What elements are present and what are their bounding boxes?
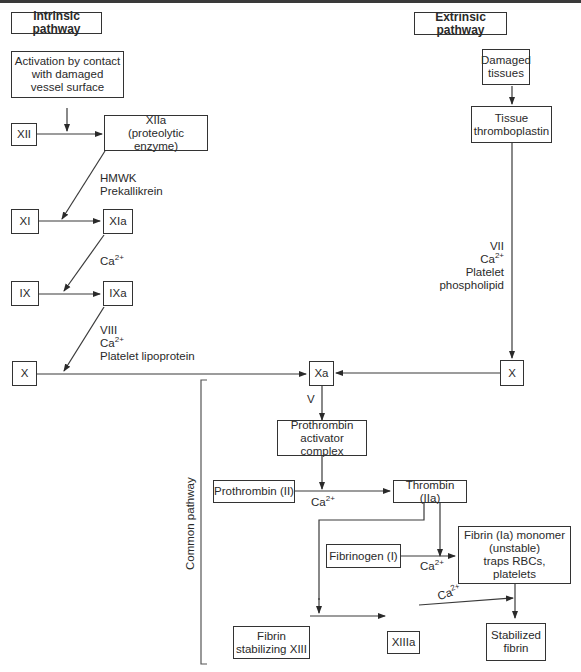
stabilized-fibrin-node: Stabilized fibrin <box>486 623 546 661</box>
factor-xii-node: XII <box>11 123 37 146</box>
factor-x-intrinsic-node: X <box>12 361 37 386</box>
factor-xi-node: XI <box>11 209 39 234</box>
factor-ixa-node: IXa <box>103 281 133 306</box>
damaged-tissues-node: Damaged tissues <box>482 49 530 85</box>
thrombin-node: Thrombin (IIa) <box>393 480 467 503</box>
fibrin-monomer-node: Fibrin (Ia) monomer (unstable) traps RBC… <box>458 526 571 584</box>
factor-x-extrinsic-node: X <box>500 360 524 386</box>
fibrinogen-node: Fibrinogen (I) <box>326 544 401 568</box>
calcium-label-fibrinogen: Ca2+ <box>420 560 444 573</box>
factor-v-label: V <box>307 393 315 406</box>
extrinsic-pathway-header: Extrinsic pathway <box>414 12 507 35</box>
common-pathway-label: Common pathway <box>184 477 196 570</box>
prothrombin-activator-node: Prothrombin activator complex <box>277 420 367 456</box>
fibrin-stabilizing-xiii-node: Fibrin stabilizing XIII <box>233 626 310 659</box>
factor-xa-node: Xa <box>309 361 334 386</box>
tissue-thromboplastin-node: Tissue thromboplastin <box>471 106 552 143</box>
activation-contact-node: Activation by contact with damaged vesse… <box>11 51 124 98</box>
intrinsic-pathway-header: Intrinsic pathway <box>11 12 102 34</box>
factor-xiiia-node: XIIIa <box>387 631 420 654</box>
hmwk-prekallikrein-label: HMWK Prekallikrein <box>100 172 163 198</box>
viii-calcium-lipoprotein-label: VIIICa2+Platelet lipoprotein <box>100 324 195 363</box>
factor-ix-node: IX <box>11 281 39 306</box>
calcium-label-prothrombin: Ca2+ <box>311 496 335 509</box>
prothrombin-node: Prothrombin (II) <box>213 480 295 503</box>
vii-calcium-phospholipid-label: VIICa2+Platelet phospholipid <box>400 240 504 292</box>
calcium-label-1: Ca2+ <box>100 255 124 268</box>
factor-xiia-node: XIIa (proteolytic enzyme) <box>104 115 208 151</box>
factor-xia-node: XIa <box>103 209 133 234</box>
